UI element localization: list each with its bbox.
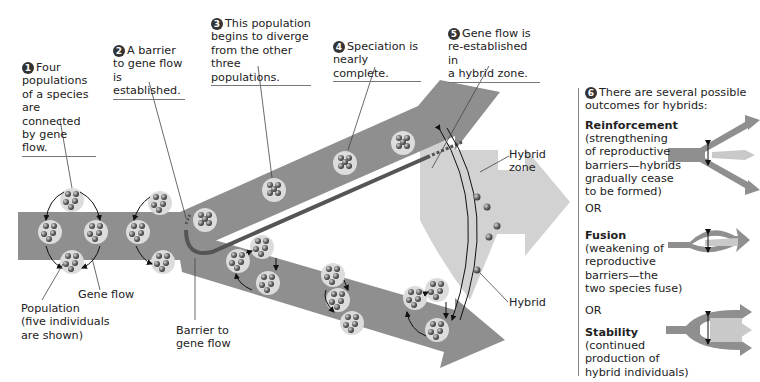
or-separator-2: OR [585,304,602,317]
outcome-stability: Stability (continued production of hybri… [585,326,689,379]
gene-flow-label: Gene flow [78,288,134,301]
or-separator-1: OR [585,202,602,215]
hybrid-zone-label: Hybrid zone [509,148,546,175]
barrier-label: Barrier to gene flow [176,324,231,351]
outcomes-panel: 6There are several possible outcomes for… [578,88,760,376]
hybrid-zone-arrow [420,130,570,300]
step-1-label: 1Four populations of a species are conne… [22,61,96,157]
step-number-1: 1 [22,62,34,74]
step-4-label: 4Speciation is nearly complete. [333,40,421,82]
outcome-reinforcement: Reinforcement (strengthening of reproduc… [585,119,681,198]
step-number-4: 4 [333,41,345,53]
step-number-3: 3 [211,18,223,30]
step-2-label: 2A barrier to gene flow is established. [113,44,185,100]
outcome-fusion: Fusion (weakening of reproductive barrie… [585,229,682,295]
step-number-5: 5 [448,28,460,40]
step-5-label: 5Gene flow is re-established in a hybrid… [448,27,540,83]
hybrid-label: Hybrid [509,296,546,309]
step-number-2: 2 [113,45,125,57]
step-3-label: 3This population begins to diverge from … [211,17,311,86]
step-6-label: 6There are several possible outcomes for… [585,86,760,112]
step-number-6: 6 [585,87,597,99]
population-label: Population (five individuals are shown) [21,302,110,342]
